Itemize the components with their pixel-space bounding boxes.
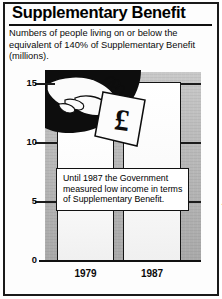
title-divider <box>9 24 212 26</box>
y-tick-label-5: 5 <box>13 195 37 206</box>
y-tick-label-10: 10 <box>13 136 37 147</box>
gridline-5 <box>35 201 58 203</box>
source-note: Source: DSS and IFS, 1990 <box>221 166 222 272</box>
annotation-callout: Until 1987 the Government measured low i… <box>56 168 189 211</box>
chart-subtitle: Numbers of people living on or below the… <box>9 28 205 63</box>
gridline-10-right <box>181 142 201 144</box>
x-tick-label-1979: 1979 <box>57 268 114 279</box>
gridline-15 <box>35 83 55 85</box>
gridline-15-right <box>181 83 201 85</box>
page-title: Supplementary Benefit <box>12 3 210 22</box>
y-tick-label-0: 0 <box>13 254 37 265</box>
y-axis-labels: 15 10 5 0 <box>9 72 37 261</box>
chart-plot-area: £ 15 10 5 0 1979 1987 Until 1987 the Gov… <box>9 72 212 287</box>
y-tick-label-15: 15 <box>13 77 37 88</box>
x-tick-label-1987: 1987 <box>123 268 181 279</box>
axis-baseline <box>39 260 201 262</box>
gridline-10 <box>35 142 58 144</box>
supplementary-benefit-figure: Supplementary Benefit Numbers of people … <box>0 0 222 299</box>
